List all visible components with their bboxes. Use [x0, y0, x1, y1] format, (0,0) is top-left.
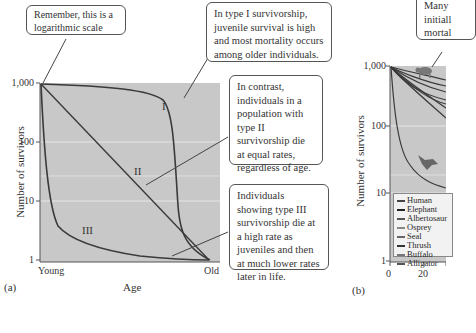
legend-item-alligator: Alligator: [397, 259, 449, 268]
b-x-tick-0: 0: [386, 268, 391, 279]
b-x-tick-20: 20: [418, 268, 428, 279]
legend-item-osprey: Osprey: [397, 223, 449, 232]
panel-b-label: (b): [352, 284, 365, 296]
b-y-axis-title: Number of survivors: [354, 101, 366, 221]
species-legend: Human Elephant Albertosaur Osprey Seal T…: [393, 193, 453, 257]
callout-many-text: Many initiall mortal: [424, 0, 451, 38]
b-y-tick-1: 1: [352, 255, 386, 266]
b-y-tick-1000: 1,000: [352, 60, 386, 71]
callout-many-partial: Many initiall mortal: [416, 0, 476, 40]
